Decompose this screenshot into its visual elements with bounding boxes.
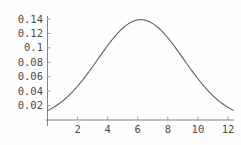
x-tick-label: 6 xyxy=(135,123,141,135)
x-tick-label: 10 xyxy=(192,123,205,135)
y-tick-label: 0.06 xyxy=(18,70,43,82)
x-tick-label: 8 xyxy=(165,123,171,135)
y-tick-label: 0.14 xyxy=(18,13,43,25)
plot-area: 0.020.040.060.080.10.120.14 24681012 xyxy=(0,0,241,145)
y-tick-label: 0.02 xyxy=(18,99,43,111)
y-tick-labels: 0.020.040.060.080.10.120.14 xyxy=(18,13,43,112)
x-tick-label: 4 xyxy=(105,123,111,135)
x-tick-label: 2 xyxy=(74,123,80,135)
y-tick-label: 0.04 xyxy=(18,85,43,97)
chart-screenshot: 0.020.040.060.080.10.120.14 24681012 xyxy=(0,0,241,145)
x-tick-label: 12 xyxy=(222,123,235,135)
y-tick-label: 0.1 xyxy=(24,41,43,53)
y-tick-label: 0.08 xyxy=(18,56,43,68)
y-tick-label: 0.12 xyxy=(18,27,43,39)
